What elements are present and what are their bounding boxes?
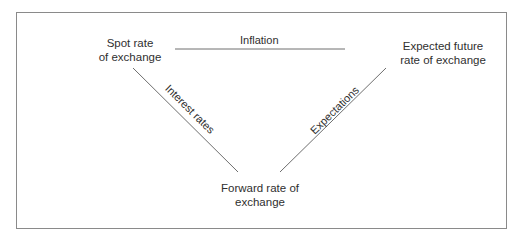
inflation-label: Inflation: [240, 34, 279, 46]
interest-rates-connector: [133, 68, 238, 172]
expected-future-label-line1: Expected future: [388, 39, 498, 53]
forward-rate-label-line2: exchange: [205, 195, 315, 209]
expected-future-label-line2: rate of exchange: [388, 53, 498, 67]
spot-rate-node: Spot rate of exchange: [80, 36, 180, 64]
forward-rate-label-line1: Forward rate of: [205, 181, 315, 195]
expectations-connector: [280, 68, 386, 172]
forward-rate-node: Forward rate of exchange: [205, 181, 315, 209]
spot-rate-label-line2: of exchange: [80, 50, 180, 64]
spot-rate-label-line1: Spot rate: [80, 36, 180, 50]
expected-future-rate-node: Expected future rate of exchange: [388, 39, 498, 67]
